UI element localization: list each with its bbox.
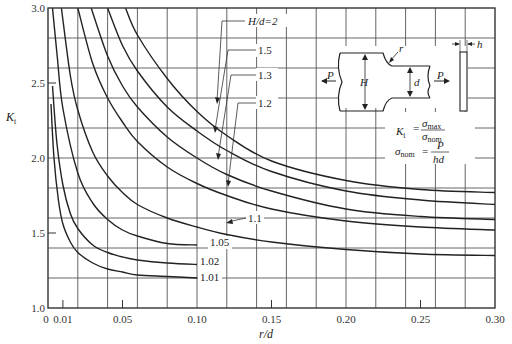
y-tick-label: 3.0 bbox=[31, 2, 45, 14]
label-1-02: 1.02 bbox=[200, 255, 219, 267]
x-axis-title: r/d bbox=[259, 327, 274, 341]
P-right-label: P bbox=[436, 69, 444, 81]
formula-kt-eq: = bbox=[413, 122, 419, 134]
curve-h-d-1-01 bbox=[51, 104, 197, 278]
inset-diagram: H d r P P h Kt = σmax σnom bbox=[321, 38, 483, 165]
label-1-05: 1.05 bbox=[210, 236, 230, 248]
label-H-d-2: H/d=2 bbox=[247, 15, 278, 27]
h-arrow-left bbox=[455, 42, 460, 46]
y-tick-label: 1.5 bbox=[31, 227, 45, 239]
label-1-3: 1.3 bbox=[258, 69, 272, 81]
leader-H-d-2 bbox=[217, 21, 245, 101]
formula-sigma-den: hd bbox=[433, 153, 445, 165]
formula-sigma-eq: = bbox=[422, 145, 428, 157]
label-1-5: 1.5 bbox=[258, 44, 272, 56]
label-1-1: 1.1 bbox=[248, 212, 262, 224]
stress-concentration-chart: 00.010.050.100.150.200.250.301.01.52.02.… bbox=[0, 0, 512, 344]
y-tick-label: 2.5 bbox=[31, 77, 45, 89]
leader-1-5 bbox=[215, 50, 256, 130]
x-tick-label: 0.20 bbox=[336, 313, 356, 325]
x-tick-label: 0.30 bbox=[485, 313, 505, 325]
x-tick-label: 0 bbox=[43, 313, 49, 325]
thickness-side-view bbox=[460, 52, 467, 111]
curve-labels: H/d=2 1.5 1.3 1.2 1.1 1.05 1.02 1.01 bbox=[198, 14, 288, 284]
r-label: r bbox=[399, 42, 404, 54]
y-axis-title: Kt bbox=[5, 110, 17, 126]
x-tick-label: 0.15 bbox=[262, 313, 282, 325]
x-tick-label: 0.10 bbox=[187, 313, 207, 325]
y-tick-label: 1.0 bbox=[31, 302, 45, 314]
label-1-2: 1.2 bbox=[258, 97, 272, 109]
H-label: H bbox=[359, 76, 369, 88]
d-label: d bbox=[414, 76, 420, 88]
x-tick-label: 0.05 bbox=[113, 313, 133, 325]
x-tick-label: 0.01 bbox=[53, 313, 72, 325]
y-tick-label: 2.0 bbox=[31, 152, 45, 164]
label-1-01: 1.01 bbox=[200, 271, 219, 283]
x-tick-label: 0.25 bbox=[411, 313, 431, 325]
h-label: h bbox=[477, 38, 483, 50]
inset-background bbox=[338, 46, 468, 108]
leader-1-3 bbox=[218, 75, 256, 157]
formula-sigma-num: P bbox=[436, 139, 444, 151]
h-arrow-right bbox=[467, 42, 472, 46]
leader-1-2 bbox=[228, 103, 256, 184]
P-left-label: P bbox=[326, 69, 334, 81]
curve-h-d-1-02 bbox=[53, 86, 198, 265]
leader-arrow-1-3 bbox=[216, 153, 221, 160]
